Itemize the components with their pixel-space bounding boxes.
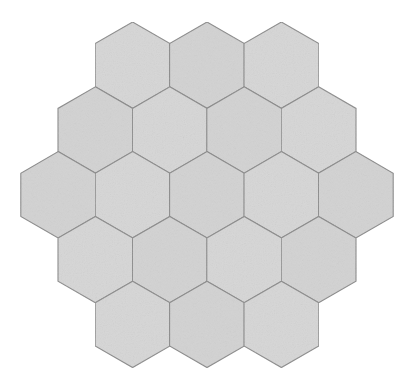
hex-grid-svg <box>0 0 414 392</box>
hex-grid-canvas <box>0 0 414 392</box>
